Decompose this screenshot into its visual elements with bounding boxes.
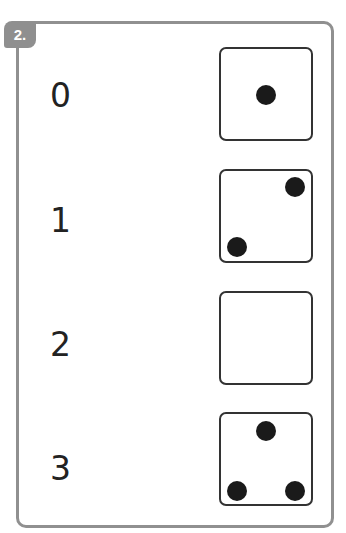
dot-icon	[285, 177, 305, 197]
die-two-dots[interactable]	[219, 169, 313, 263]
dot-icon	[285, 481, 305, 501]
number-label-2: 2	[50, 325, 90, 365]
dot-icon	[227, 481, 247, 501]
exercise-number-badge: 2.	[4, 21, 36, 48]
die-empty[interactable]	[219, 291, 313, 385]
dot-icon	[256, 421, 276, 441]
number-label-3: 3	[50, 449, 90, 489]
die-one-dot[interactable]	[219, 47, 313, 141]
dot-icon	[256, 85, 276, 105]
number-label-1: 1	[50, 201, 90, 241]
die-three-dots[interactable]	[219, 412, 313, 506]
dot-icon	[227, 237, 247, 257]
number-label-0: 0	[50, 76, 90, 116]
